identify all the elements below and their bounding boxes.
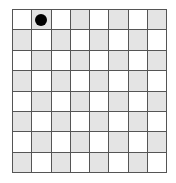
board-cell-r5-c1[interactable] bbox=[32, 112, 50, 131]
board-cell-r2-c5[interactable] bbox=[109, 51, 127, 70]
board-cell-r3-c0[interactable] bbox=[13, 71, 31, 90]
board-cell-r1-c6[interactable] bbox=[129, 30, 147, 49]
board-cell-r6-c5[interactable] bbox=[109, 132, 127, 151]
board-cell-r6-c3[interactable] bbox=[71, 132, 89, 151]
board-cell-r7-c0[interactable] bbox=[13, 153, 31, 172]
board-cell-r0-c3[interactable] bbox=[71, 10, 89, 29]
board-cell-r2-c1[interactable] bbox=[32, 51, 50, 70]
board-cell-r7-c1[interactable] bbox=[32, 153, 50, 172]
board-cell-r3-c7[interactable] bbox=[148, 71, 166, 90]
board-cell-r7-c2[interactable] bbox=[52, 153, 70, 172]
board-cell-r2-c6[interactable] bbox=[129, 51, 147, 70]
board-cell-r6-c2[interactable] bbox=[52, 132, 70, 151]
board-cell-r6-c6[interactable] bbox=[129, 132, 147, 151]
board-cell-r5-c7[interactable] bbox=[148, 112, 166, 131]
board-cell-r5-c0[interactable] bbox=[13, 112, 31, 131]
black-stone-piece[interactable] bbox=[35, 14, 47, 26]
board-cell-r5-c6[interactable] bbox=[129, 112, 147, 131]
board-cell-r0-c5[interactable] bbox=[109, 10, 127, 29]
board-cell-r3-c1[interactable] bbox=[32, 71, 50, 90]
board-cell-r4-c6[interactable] bbox=[129, 92, 147, 111]
board-cell-r3-c3[interactable] bbox=[71, 71, 89, 90]
board-cell-r6-c1[interactable] bbox=[32, 132, 50, 151]
board-cell-r4-c1[interactable] bbox=[32, 92, 50, 111]
board-cell-r3-c6[interactable] bbox=[129, 71, 147, 90]
board-cell-r4-c4[interactable] bbox=[90, 92, 108, 111]
board-cell-r0-c4[interactable] bbox=[90, 10, 108, 29]
board-cell-r6-c0[interactable] bbox=[13, 132, 31, 151]
board-cell-r6-c7[interactable] bbox=[148, 132, 166, 151]
board-cell-r0-c2[interactable] bbox=[52, 10, 70, 29]
board-cell-r7-c4[interactable] bbox=[90, 153, 108, 172]
board-cell-r3-c4[interactable] bbox=[90, 71, 108, 90]
board-cell-r7-c3[interactable] bbox=[71, 153, 89, 172]
board-cell-r0-c6[interactable] bbox=[129, 10, 147, 29]
board-cell-r5-c3[interactable] bbox=[71, 112, 89, 131]
board-cell-r1-c1[interactable] bbox=[32, 30, 50, 49]
board-cell-r1-c0[interactable] bbox=[13, 30, 31, 49]
board-cell-r1-c7[interactable] bbox=[148, 30, 166, 49]
board-cell-r5-c4[interactable] bbox=[90, 112, 108, 131]
board-cell-r1-c5[interactable] bbox=[109, 30, 127, 49]
board-cell-r2-c2[interactable] bbox=[52, 51, 70, 70]
board-cell-r4-c3[interactable] bbox=[71, 92, 89, 111]
board-cell-r2-c0[interactable] bbox=[13, 51, 31, 70]
board-cell-r2-c4[interactable] bbox=[90, 51, 108, 70]
board-cell-r0-c7[interactable] bbox=[148, 10, 166, 29]
board-cell-r1-c3[interactable] bbox=[71, 30, 89, 49]
board-cell-r2-c3[interactable] bbox=[71, 51, 89, 70]
board-cell-r0-c1[interactable] bbox=[32, 10, 50, 29]
board-cell-r3-c5[interactable] bbox=[109, 71, 127, 90]
board-cell-r1-c2[interactable] bbox=[52, 30, 70, 49]
game-board bbox=[12, 9, 167, 173]
board-cell-r0-c0[interactable] bbox=[13, 10, 31, 29]
board-cell-r5-c5[interactable] bbox=[109, 112, 127, 131]
board-cell-r2-c7[interactable] bbox=[148, 51, 166, 70]
board-cell-r7-c7[interactable] bbox=[148, 153, 166, 172]
board-cell-r1-c4[interactable] bbox=[90, 30, 108, 49]
board-cell-r6-c4[interactable] bbox=[90, 132, 108, 151]
board-cell-r3-c2[interactable] bbox=[52, 71, 70, 90]
board-cell-r4-c2[interactable] bbox=[52, 92, 70, 111]
board-cell-r7-c6[interactable] bbox=[129, 153, 147, 172]
board-cell-r4-c0[interactable] bbox=[13, 92, 31, 111]
board-cell-r5-c2[interactable] bbox=[52, 112, 70, 131]
board-cell-r4-c5[interactable] bbox=[109, 92, 127, 111]
board-cell-r4-c7[interactable] bbox=[148, 92, 166, 111]
board-cell-r7-c5[interactable] bbox=[109, 153, 127, 172]
